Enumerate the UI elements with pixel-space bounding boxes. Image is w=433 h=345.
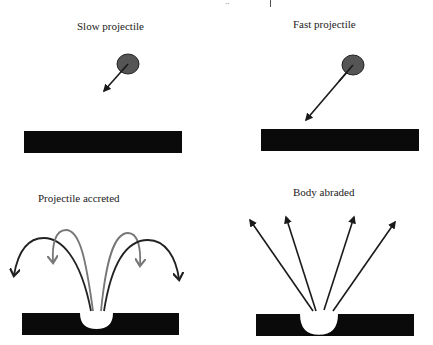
ejecta-arrow-abraded-1	[286, 217, 316, 311]
diagram-canvas	[0, 0, 433, 345]
ejecta-arrow-abraded-3	[333, 222, 395, 311]
surface-slab-abraded	[256, 314, 414, 336]
surface-slab-slow	[24, 131, 182, 153]
surface-slab-accreted	[22, 313, 179, 335]
ejecta-arrow-abraded-0	[250, 220, 313, 311]
ejecta-arc-accreted-3	[104, 240, 179, 311]
surface-slab-fast	[261, 129, 419, 151]
ejecta-arrow-abraded-2	[324, 217, 354, 310]
